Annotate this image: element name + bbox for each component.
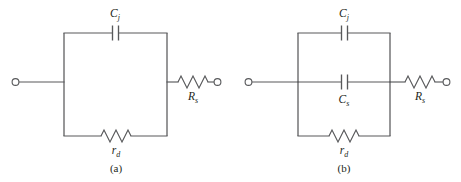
panel-a: Cj rd Rs (a) [12, 7, 221, 175]
panel-b: Cj Cs rd Rs [245, 7, 450, 175]
panel-b-left-terminal[interactable] [245, 79, 252, 86]
panel-b-label-cs: Cs [339, 93, 350, 108]
panel-b-resistor-rs[interactable] [405, 76, 435, 88]
panel-b-caption: (b) [338, 162, 351, 175]
panel-b-label-rs: Rs [414, 90, 425, 105]
panel-b-label-rd: rd [340, 144, 349, 159]
panel-a-label-cj: Cj [110, 7, 121, 22]
panel-a-left-terminal[interactable] [12, 79, 19, 86]
panel-b-capacitor-cs[interactable] [342, 75, 348, 90]
panel-b-right-terminal[interactable] [443, 79, 450, 86]
circuit-diagram-canvas: Cj rd Rs (a) [0, 0, 461, 182]
panel-b-resistor-rd[interactable] [329, 130, 359, 142]
panel-a-label-rd: rd [112, 144, 121, 159]
panel-b-label-cj: Cj [339, 7, 350, 22]
panel-a-label-rs: Rs [187, 90, 198, 105]
panel-a-capacitor-cj[interactable] [113, 26, 119, 41]
panel-b-capacitor-cj[interactable] [342, 26, 348, 41]
panel-a-caption: (a) [110, 162, 123, 175]
panel-a-resistor-rd[interactable] [101, 130, 131, 142]
panel-a-resistor-rs[interactable] [178, 76, 208, 88]
panel-a-right-terminal[interactable] [214, 79, 221, 86]
figure-root: Cj rd Rs (a) [0, 0, 461, 182]
